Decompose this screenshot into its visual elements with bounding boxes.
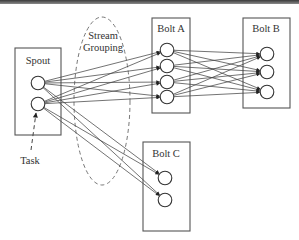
task-label: Task [20,155,40,166]
edge-spout-1-to-bolt_a-3 [45,82,160,83]
edge-spout-1-to-bolt_c-2 [43,88,160,195]
bolt-b-task-3 [260,85,274,99]
edge-spout-2-to-bolt_c-1 [44,107,159,174]
bolt-a-task-1 [160,43,174,57]
grouping-label: Grouping [83,42,124,53]
edge-spout-2-to-bolt_a-3 [45,83,160,103]
bolt-a-task-3 [160,75,174,89]
stream-label: Stream [88,30,118,41]
bolt-a-task-2 [160,59,174,73]
bolt-c-task-1 [158,171,172,185]
spout-label: Spout [26,55,51,66]
bolt-a-label: Bolt A [157,23,185,34]
edge-spout-2-to-bolt_a-2 [45,68,160,102]
bolt-b-task-1 [260,47,274,61]
bolt-c-task-2 [158,193,172,207]
bolt-c-label: Bolt C [152,148,180,159]
edge-spout-2-to-bolt_c-2 [43,108,159,195]
bolt-a-task-4 [160,90,174,104]
bolt-b-label: Bolt B [252,23,280,34]
storm-topology-diagram: Spout Bolt A Bolt B Bolt C Stream Groupi… [0,0,299,240]
spout-task-2 [31,97,45,111]
edge-spout-1-to-bolt_a-2 [45,67,160,82]
spout-task-1 [31,76,45,90]
bolt-b-task-2 [260,65,274,79]
